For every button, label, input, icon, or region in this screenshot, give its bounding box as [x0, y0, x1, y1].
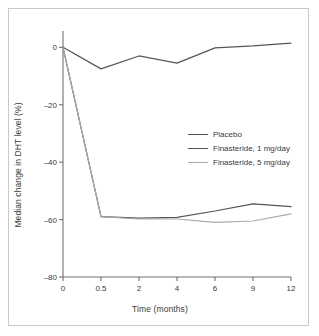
legend-item: Finasteride, 1 mg/day: [188, 141, 290, 155]
y-tick-label: –20: [33, 100, 57, 109]
legend-item: Finasteride, 5 mg/day: [188, 155, 290, 169]
x-tick-label: 6: [213, 284, 217, 293]
legend-label: Finasteride, 5 mg/day: [213, 158, 290, 167]
legend-item: Placebo: [188, 127, 290, 141]
y-tick-label: 0: [33, 43, 57, 52]
y-tick-label: –60: [33, 215, 57, 224]
legend-label: Placebo: [213, 130, 242, 139]
legend-line-swatch: [188, 162, 208, 163]
x-tick-label: 0: [61, 284, 65, 293]
x-tick-label: 0.5: [95, 284, 106, 293]
y-tick-label: –40: [33, 158, 57, 167]
chart-legend: PlaceboFinasteride, 1 mg/dayFinasteride,…: [188, 127, 290, 169]
legend-label: Finasteride, 1 mg/day: [213, 144, 290, 153]
legend-line-swatch: [188, 148, 208, 149]
x-tick-label: 2: [137, 284, 141, 293]
series-line-0: [63, 43, 291, 69]
y-tick-label: –80: [33, 273, 57, 282]
y-axis-title: Median change in DHT level (%): [13, 85, 23, 245]
x-tick-label: 4: [175, 284, 179, 293]
x-tick-label: 9: [251, 284, 255, 293]
x-tick-label: 12: [287, 284, 296, 293]
x-axis-title: Time (months): [0, 304, 319, 314]
legend-line-swatch: [188, 134, 208, 135]
